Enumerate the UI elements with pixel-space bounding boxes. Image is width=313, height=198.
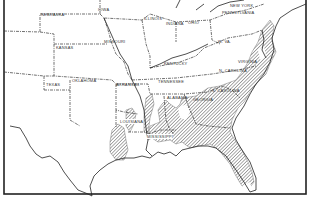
map-canvas: [0, 0, 313, 198]
label-s-carolina: S. CAROLINA: [212, 88, 240, 93]
label-texas: TEXAS: [46, 82, 60, 87]
label-louisiana: LOUISIANA: [120, 119, 143, 124]
label-mississippi: MISSISSIPPI: [147, 134, 173, 139]
label-missouri: MISSOURI: [104, 39, 125, 44]
map-frame: [4, 0, 306, 194]
label-arkansas: ARKANSAS: [116, 82, 139, 87]
range-map: NEBRASKA IOWA ILLINOIS KANSAS MISSOURI I…: [0, 0, 313, 198]
label-new-york: NEW YORK: [230, 3, 253, 8]
label-iowa: IOWA: [98, 7, 109, 12]
label-illinois: ILLINOIS: [144, 16, 162, 21]
label-w-va: W. VA.: [218, 39, 231, 44]
label-n-carolina: N. CAROLINA: [219, 68, 247, 73]
label-alabama: ALABAMA: [167, 95, 187, 100]
label-nebraska: NEBRASKA: [41, 12, 64, 17]
label-georgia: GEORGIA: [193, 97, 213, 102]
label-virginia: VIRGINIA: [238, 59, 257, 64]
label-kentucky: KENTUCKY: [164, 61, 187, 66]
label-tennessee: TENNESSEE: [158, 79, 184, 84]
label-indiana: INDIANA: [166, 21, 184, 26]
label-ohio: OHIO: [188, 20, 199, 25]
label-pennsylvania: PENNSYLVANIA: [222, 10, 254, 15]
coastlines: [10, 0, 306, 196]
label-kansas: KANSAS: [56, 45, 73, 50]
label-oklahoma: OKLAHOMA: [72, 78, 96, 83]
